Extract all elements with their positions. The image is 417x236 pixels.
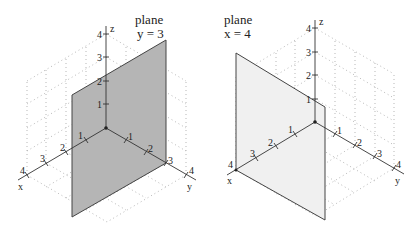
- right-x-tick-3: 3: [250, 148, 255, 159]
- left-x-tick-3: 3: [40, 153, 45, 164]
- plane-x4: [236, 53, 325, 220]
- right-x-tick-4: 4: [228, 159, 233, 170]
- left-z-tick-2: 2: [97, 76, 102, 87]
- right-z-tick-4: 4: [306, 23, 311, 34]
- left-x-tick-1: 1: [78, 130, 83, 141]
- right-y-tick-4: 4: [396, 159, 401, 170]
- left-y-tick-2: 2: [148, 143, 153, 154]
- left-y-tick-3: 3: [168, 155, 173, 166]
- left-x-label: x: [18, 181, 23, 192]
- left-diagram: 1 2 3 4 z 1 2 3 4 x 1 2 3 4 y plane y = …: [18, 12, 196, 222]
- right-y-tick-3: 3: [377, 148, 382, 159]
- right-y-label: y: [395, 175, 400, 186]
- right-z-tick-2: 2: [306, 70, 311, 81]
- left-z-tick-1: 1: [97, 99, 102, 110]
- right-title-line2: x = 4: [224, 26, 251, 41]
- left-x-tick-4: 4: [20, 165, 25, 176]
- left-title-line2: y = 3: [137, 26, 164, 41]
- left-title-line1: plane: [135, 12, 163, 27]
- diagram-canvas: 1 2 3 4 z 1 2 3 4 x 1 2 3 4 y plane y = …: [0, 0, 417, 236]
- left-x-tick-2: 2: [60, 142, 65, 153]
- left-z-tick-3: 3: [97, 52, 102, 63]
- right-y-tick-2: 2: [357, 137, 362, 148]
- right-y-tick-1: 1: [337, 125, 342, 136]
- right-z-label: z: [319, 16, 324, 27]
- right-x-tick-1: 1: [288, 124, 293, 135]
- right-z-tick-1: 1: [306, 94, 311, 105]
- right-x-label: x: [227, 175, 232, 186]
- right-diagram: 1 2 3 4 z 1 2 3 4 x 1 2 3 4 y plane x = …: [224, 12, 404, 220]
- right-z-tick-3: 3: [306, 47, 311, 58]
- left-z-label: z: [110, 23, 115, 34]
- left-y-tick-4: 4: [189, 165, 194, 176]
- left-z-tick-4: 4: [97, 29, 102, 40]
- left-y-label: y: [187, 181, 192, 192]
- plane-y3: [72, 40, 166, 217]
- right-x-tick-2: 2: [268, 137, 273, 148]
- right-title-line1: plane: [224, 12, 252, 27]
- left-y-tick-1: 1: [128, 131, 133, 142]
